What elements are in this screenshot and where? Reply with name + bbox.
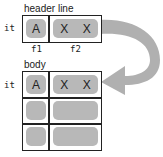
- field-label-f2: f2: [70, 45, 81, 54]
- header-line-box: A XX: [22, 15, 102, 43]
- body-row-divider: [22, 97, 102, 99]
- body-row-label: it: [4, 81, 15, 90]
- body-row-divider: [22, 123, 102, 125]
- body-cell-x: XX: [53, 75, 98, 94]
- body-cell-a: A: [26, 75, 46, 94]
- field-divider: [48, 15, 50, 43]
- header-line-title: header line: [24, 4, 73, 14]
- body-cell-empty: [53, 101, 98, 120]
- body-cell-empty: [26, 101, 46, 120]
- header-row-label: it: [4, 24, 15, 33]
- body-title: body: [24, 60, 46, 70]
- body-cell-empty: [53, 127, 98, 146]
- field-label-f1: f1: [31, 45, 42, 54]
- header-cell-a: A: [26, 19, 46, 38]
- body-cell-empty: [26, 127, 46, 146]
- body-table-box: A XX: [22, 71, 102, 151]
- header-cell-x: XX: [53, 19, 98, 38]
- body-column-divider: [48, 71, 50, 151]
